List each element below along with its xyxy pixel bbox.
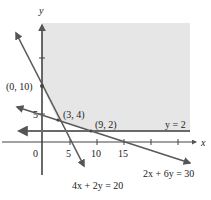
- point-label-9-2: (9, 2): [95, 119, 117, 131]
- vertex-9-2: [89, 129, 92, 132]
- feasible-region-graph: y x 0 5 10 15 5 (0, 10) (3, 4) (9, 2) y …: [0, 0, 211, 200]
- point-label-3-4: (3, 4): [63, 109, 85, 121]
- equation-2x-6y-30: 2x + 6y = 30: [143, 168, 194, 179]
- vertex-3-4: [56, 118, 59, 121]
- x-tick-10-label: 10: [91, 148, 101, 159]
- x-tick-5-label: 5: [66, 148, 71, 159]
- y-tick-5-label: 5: [33, 109, 38, 120]
- x-axis-label: x: [200, 137, 206, 148]
- vertex-0-10: [40, 84, 44, 88]
- equation-y-2: y = 2: [165, 119, 186, 130]
- x-tick-15-label: 15: [118, 148, 128, 159]
- origin-label: 0: [33, 148, 38, 159]
- y-axis-label: y: [38, 5, 44, 16]
- point-label-0-10: (0, 10): [6, 81, 33, 93]
- equation-4x-2y-20: 4x + 2y = 20: [72, 180, 123, 191]
